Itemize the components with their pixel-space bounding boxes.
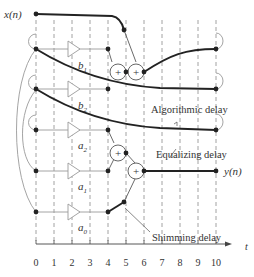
tick-label: 9 [196,257,201,268]
time-axis: 0 1 2 3 4 5 6 7 8 9 10 t [34,240,249,268]
feedback-output-path [144,49,216,72]
shimming-delay-label: Shimming delay [152,232,222,243]
coefficient-labels: b1 b2 a2 a1 a0 [78,59,88,236]
shimming-delay-path [108,202,124,212]
tick-label: 6 [142,257,147,268]
multiplier-b2-icon [68,81,80,97]
tick-label: 1 [52,257,57,268]
tick-label: 3 [88,257,93,268]
tick-label: 8 [178,257,183,268]
plus-icon: + [115,147,121,159]
retiming-diagram: 0 1 2 3 4 5 6 7 8 9 10 t [0,0,254,277]
coef-a1-label: a1 [78,180,87,195]
input-label: x(n) [3,8,22,21]
tick-label: 5 [124,257,129,268]
tick-label: 0 [34,257,39,268]
time-grid [36,20,216,244]
plus-icon: + [133,66,139,78]
left-feedback-arcs [17,34,37,212]
plus-icon: + [115,66,121,78]
plus-icon: + [133,165,139,177]
adder-3: + [110,145,126,161]
tick-label: 10 [211,257,221,268]
axis-label-t: t [245,241,248,252]
coef-a2-label: a2 [78,139,88,154]
tick-label: 7 [160,257,165,268]
output-label: y(n) [223,165,242,178]
tick-label: 2 [70,257,75,268]
coef-a0-label: a0 [78,221,88,236]
multiplier-b1-icon [68,41,80,57]
multiplier-a1-icon [68,163,80,179]
axis-arrow-icon [225,242,232,247]
adder-1: + [110,64,126,80]
equalizing-delay-label: Equalizing delay [156,149,228,160]
tick-label: 4 [106,257,111,268]
input-path [36,14,124,30]
multiplier-a0-icon [68,204,80,220]
multiplier-a2-icon [68,122,80,138]
algorithmic-delay-label: Algorithmic delay [151,104,228,115]
